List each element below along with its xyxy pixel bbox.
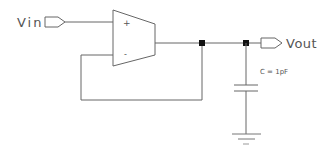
opamp-minus-label: - [124, 50, 127, 59]
circuit-diagram: Vin + - Vout C = 1pF [0, 0, 331, 157]
opamp-body-icon [113, 10, 155, 66]
ground-icon [232, 134, 261, 144]
output-label: Vout [286, 36, 317, 51]
input-port-arrow-icon [45, 17, 65, 27]
output-port-arrow-icon [261, 38, 282, 48]
opamp-plus-label: + [123, 18, 131, 28]
junction-dot-feedback [199, 40, 205, 46]
feedback-wire [81, 43, 202, 100]
capacitor-label: C = 1pF [260, 68, 288, 76]
opamp: + - [113, 10, 155, 66]
input-label: Vin [17, 15, 43, 30]
input-port: Vin [17, 15, 65, 30]
capacitor: C = 1pF [234, 43, 288, 134]
output-port: Vout [261, 36, 317, 51]
